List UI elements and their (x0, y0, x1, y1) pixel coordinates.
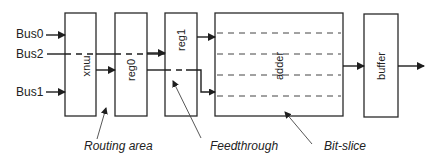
feedthrough-caption: Feedthrough (210, 139, 278, 153)
input-label-bus1: Bus1 (16, 85, 44, 99)
buffer-label: buffer (375, 52, 387, 80)
bit-slice-pointer (285, 112, 312, 144)
reg1-block (165, 13, 197, 116)
reg1-label: reg1 (175, 29, 187, 51)
datapath-diagram: Bus0 Bus2 Bus1 mux reg0 reg1 adder buffe… (0, 0, 440, 159)
routing-area-pointer (97, 108, 106, 139)
adder-label: adder (273, 52, 285, 80)
input-label-bus0: Bus0 (16, 27, 44, 41)
input-label-bus2: Bus2 (16, 47, 44, 61)
bit-slice-caption: Bit-slice (324, 139, 366, 153)
reg0-label: reg0 (125, 59, 137, 81)
mux-label: mux (82, 56, 94, 77)
routing-area-caption: Routing area (84, 139, 153, 153)
